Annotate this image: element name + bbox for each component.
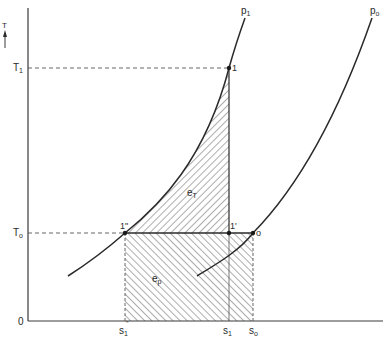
tick-label-T1: T1 [13,62,23,74]
curve-label-p0: po [370,5,380,17]
point-1prime [227,231,231,235]
origin-label: 0 [18,316,24,327]
point-label-o: o [256,228,261,238]
tick-label-To: To [13,227,23,239]
point-1doubleprime [123,231,127,235]
t-s-diagram: T T1 To 0 s1 " s1 so p1 po 1 1' 1" o eT … [0,0,391,341]
point-o [251,231,255,235]
point-label-1prime: 1' [230,221,237,231]
point-label-1: 1 [232,63,237,73]
area-eT-hatch [125,68,229,233]
curve-label-p1: p1 [241,5,251,17]
area-ep-hatch [125,233,253,321]
point-label-1doubleprime: 1" [120,221,128,231]
y-axis-label: T [2,21,7,30]
point-1 [227,66,231,70]
tick-label-so: so [249,325,258,337]
tick-label-s1: s1 [223,325,232,337]
y-axis-arrow-icon [3,30,7,48]
